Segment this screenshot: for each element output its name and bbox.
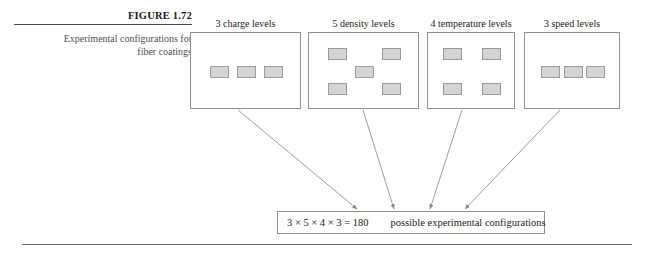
factor-rectangle-temperature	[427, 32, 515, 109]
result-description: possible experimental configurations	[368, 217, 545, 228]
level-cell-temperature-2	[482, 48, 501, 60]
factor-label-density: 5 density levels	[308, 18, 419, 30]
level-cell-temperature-1	[443, 48, 462, 60]
arrow-from-density	[363, 110, 394, 209]
factor-label-speed: 3 speed levels	[524, 18, 620, 30]
level-cell-temperature-3	[443, 83, 462, 95]
arrow-from-speed	[465, 110, 560, 209]
level-cell-speed-1	[541, 66, 560, 78]
level-cell-charge-3	[264, 66, 283, 78]
factor-label-temperature: 4 temperature levels	[427, 18, 515, 30]
level-cell-density-2	[382, 48, 401, 60]
result-box: 3 × 5 × 4 × 3 = 180 possible experimenta…	[277, 211, 545, 234]
level-cell-speed-2	[564, 66, 583, 78]
figure-page: FIGURE 1.72 Experimental configurations …	[0, 0, 650, 255]
level-cell-charge-2	[237, 66, 256, 78]
level-cell-charge-1	[210, 66, 229, 78]
figure-bottom-rule	[22, 244, 632, 245]
factor-label-charge: 3 charge levels	[190, 18, 301, 30]
factor-rectangle-density	[308, 32, 419, 109]
factor-density: 5 density levels	[308, 18, 419, 109]
factor-speed: 3 speed levels	[524, 18, 620, 109]
factor-rectangle-speed	[524, 32, 620, 109]
factor-charge: 3 charge levels	[190, 18, 301, 109]
level-cell-density-1	[328, 48, 347, 60]
factor-temperature: 4 temperature levels	[427, 18, 515, 109]
level-cell-density-4	[328, 83, 347, 95]
level-cell-density-5	[382, 83, 401, 95]
level-cell-temperature-4	[482, 83, 501, 95]
level-cell-density-3	[355, 66, 374, 78]
result-formula: 3 × 5 × 4 × 3 = 180	[278, 217, 368, 228]
level-cell-speed-3	[586, 66, 605, 78]
arrow-from-temperature	[430, 110, 462, 209]
factor-rectangle-charge	[190, 32, 301, 109]
arrow-from-charge	[238, 110, 357, 209]
